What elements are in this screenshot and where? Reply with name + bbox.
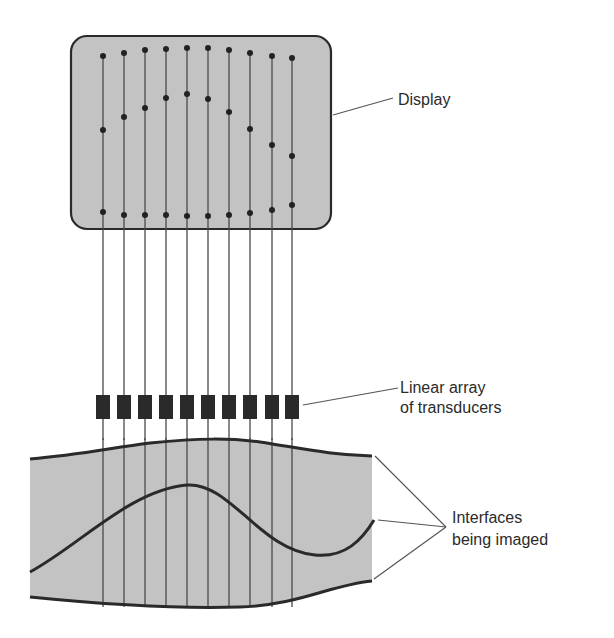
top-echo-dot [100, 53, 106, 59]
interfaces-leader-bottom [374, 527, 446, 579]
transducer-element [222, 395, 236, 419]
bottom-echo-dot [289, 202, 295, 208]
top-echo-dot [121, 50, 127, 56]
bottom-echo-dot [205, 213, 211, 219]
top-echo-dot [269, 53, 275, 59]
middle-echo-dot [289, 153, 295, 159]
middle-echo-dot [142, 105, 148, 111]
display-leader-line [333, 98, 393, 115]
transducer-element [96, 395, 110, 419]
top-echo-dot [163, 46, 169, 52]
transducer-element [159, 395, 173, 419]
interfaces-leader-middle [378, 520, 446, 527]
middle-echo-dot [121, 114, 127, 120]
bottom-echo-dot [100, 209, 106, 215]
interfaces-label-line1: Interfaces [452, 509, 522, 526]
interfaces-leader-top [375, 456, 446, 527]
top-echo-dot [247, 50, 253, 56]
transducer-element [285, 395, 299, 419]
transducers-leader-line [303, 388, 398, 405]
top-echo-dot [226, 47, 232, 53]
transducer-array [96, 395, 299, 419]
transducer-element [138, 395, 152, 419]
middle-echo-dot [184, 91, 190, 97]
middle-echo-dot [226, 109, 232, 115]
top-echo-dot [289, 55, 295, 61]
middle-echo-dot [100, 127, 106, 133]
transducer-element [265, 395, 279, 419]
transducer-element [243, 395, 257, 419]
transducer-element [201, 395, 215, 419]
bottom-echo-dot [247, 210, 253, 216]
bottom-echo-dot [226, 212, 232, 218]
tissue-body [30, 439, 372, 607]
transducers-label-line1: Linear array [400, 379, 485, 396]
top-echo-dot [142, 47, 148, 53]
bottom-echo-dot [142, 212, 148, 218]
ultrasound-diagram: Display Linear array of transducers Inte… [0, 0, 614, 638]
bottom-echo-dot [163, 212, 169, 218]
bottom-echo-dot [269, 207, 275, 213]
display-label: Display [398, 91, 450, 108]
middle-echo-dot [269, 142, 275, 148]
middle-echo-dot [205, 96, 211, 102]
interfaces-label-line2: being imaged [452, 531, 548, 548]
middle-echo-dot [247, 126, 253, 132]
top-echo-dot [205, 45, 211, 51]
middle-echo-dot [163, 95, 169, 101]
bottom-echo-dot [184, 213, 190, 219]
transducer-element [180, 395, 194, 419]
bottom-echo-dot [121, 212, 127, 218]
top-echo-dot [184, 45, 190, 51]
transducer-element [117, 395, 131, 419]
transducers-label-line2: of transducers [400, 399, 501, 416]
